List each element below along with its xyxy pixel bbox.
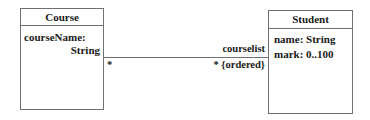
student-attribute-name: name: String [274, 33, 335, 45]
course-attribute-type: String [71, 44, 100, 56]
class-student[interactable]: Student name: String mark: 0..100 [268, 10, 353, 114]
source-multiplicity: * [107, 59, 112, 70]
target-multiplicity: * {ordered} [213, 59, 265, 70]
course-attribute-name: courseName: [24, 31, 86, 43]
class-course[interactable]: Course courseName: String [20, 8, 104, 110]
student-attribute-mark: mark: 0..100 [274, 48, 334, 60]
association-line[interactable] [103, 57, 268, 58]
class-student-name: Student [269, 11, 352, 29]
target-role-name: courselist [222, 43, 265, 54]
class-course-name: Course [21, 9, 103, 26]
